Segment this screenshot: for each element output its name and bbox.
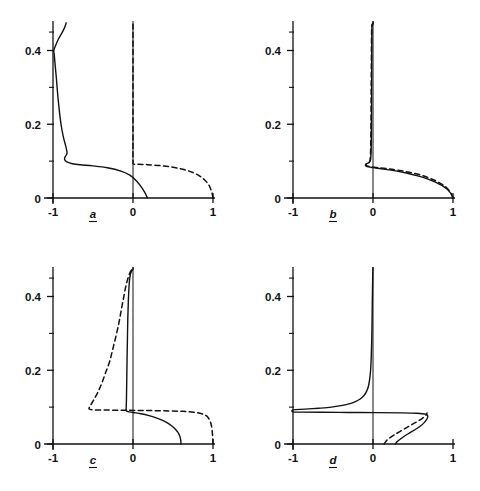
plot-panel-a: -10100.20.4a <box>0 0 240 245</box>
plot-axes-b: -10100.20.4b <box>240 0 480 245</box>
curve-dashed-curve-c <box>89 269 213 444</box>
panel-label-a: a <box>90 208 97 220</box>
y-tick-label: 0.2 <box>25 119 41 131</box>
x-tick-label: 1 <box>210 452 217 464</box>
y-tick-label: 0.2 <box>25 365 41 377</box>
x-tick-label: 1 <box>450 206 457 218</box>
curve-dashed-curve-d <box>384 413 427 444</box>
x-tick-label: -1 <box>288 206 299 218</box>
plot-axes-c: -10100.20.4c <box>0 246 240 491</box>
figure-container: -10100.20.4a -10100.20.4b -10100.20.4c -… <box>0 0 480 491</box>
x-tick-label: 1 <box>210 206 217 218</box>
x-tick-label: 0 <box>370 206 376 218</box>
x-tick-label: -1 <box>48 452 59 464</box>
y-tick-label: 0.4 <box>265 291 282 303</box>
x-tick-label: -1 <box>288 452 299 464</box>
plot-panel-c: -10100.20.4c <box>0 246 240 491</box>
curve-solid-curve-c <box>126 268 181 444</box>
curve-dashed-curve-a <box>133 22 213 198</box>
y-tick-label: 0 <box>275 193 281 205</box>
y-tick-label: 0.2 <box>265 119 281 131</box>
panel-label-b: b <box>329 208 336 220</box>
panel-label-c: c <box>90 454 97 466</box>
y-tick-label: 0 <box>35 439 41 451</box>
plot-axes-a: -10100.20.4a <box>0 0 240 245</box>
x-tick-label: -1 <box>48 206 59 218</box>
y-tick-label: 0.4 <box>25 291 42 303</box>
y-tick-label: 0.2 <box>265 365 281 377</box>
y-tick-label: 0.4 <box>25 45 42 57</box>
curve-solid-curve-b <box>365 22 453 198</box>
curve-dashed-curve-b <box>366 23 453 198</box>
x-tick-label: 0 <box>130 452 136 464</box>
x-tick-label: 0 <box>130 206 136 218</box>
y-tick-label: 0.4 <box>265 45 282 57</box>
plot-panel-b: -10100.20.4b <box>240 0 480 245</box>
panel-label-d: d <box>329 454 337 466</box>
curve-solid-curve-d <box>292 268 428 444</box>
x-tick-label: 1 <box>450 452 457 464</box>
y-tick-label: 0 <box>35 193 41 205</box>
x-tick-label: 0 <box>370 452 376 464</box>
plot-panel-d: -10100.20.4d <box>240 246 480 491</box>
y-tick-label: 0 <box>275 439 281 451</box>
plot-axes-d: -10100.20.4d <box>240 246 480 491</box>
